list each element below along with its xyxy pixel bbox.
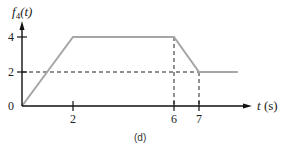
caption: (d) (134, 132, 146, 143)
y-axis-arrow-icon (20, 21, 25, 30)
chart: 4 2 0 2 6 7 f4(t) t (s) (d) (0, 0, 287, 144)
tick-label-x2: 2 (70, 112, 76, 126)
x-axis-arrow-icon (243, 104, 252, 109)
x-axis-label: t (s) (257, 98, 278, 113)
tick-label-y2: 2 (8, 65, 14, 79)
tick-label-x7: 7 (196, 112, 202, 126)
tick-label-y4: 4 (8, 30, 14, 44)
tick-label-y0: 0 (8, 99, 14, 113)
tick-label-x6: 6 (171, 112, 177, 126)
y-axis-label: f4(t) (12, 4, 32, 21)
